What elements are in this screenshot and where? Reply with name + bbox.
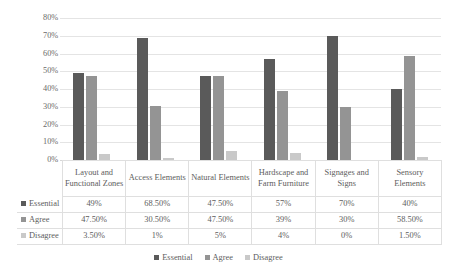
legend-swatch-icon bbox=[245, 255, 250, 260]
table-cell: 68.50% bbox=[126, 197, 189, 213]
table-cell: 40% bbox=[378, 197, 441, 213]
table-cell: 70% bbox=[315, 197, 378, 213]
bar-essential bbox=[391, 89, 402, 160]
y-axis-tick-label: 70% bbox=[43, 32, 58, 40]
bar-essential bbox=[73, 73, 84, 160]
table-column-header: Hardscape and Farm Furniture bbox=[252, 161, 315, 197]
bar-essential bbox=[264, 59, 275, 160]
table-row-header: Disagree bbox=[17, 229, 63, 245]
table-cell: 5% bbox=[189, 229, 252, 245]
bar-group bbox=[264, 18, 301, 160]
table-column-header: Access Elements bbox=[126, 161, 189, 197]
table-cell: 39% bbox=[252, 213, 315, 229]
bar-agree bbox=[277, 91, 288, 160]
bar-essential bbox=[200, 76, 211, 160]
table-cell: 49% bbox=[63, 197, 126, 213]
table-header-row: Layout and Functional ZonesAccess Elemen… bbox=[17, 161, 442, 197]
chart-legend: EssentialAgreeDisagree bbox=[0, 246, 461, 263]
table-cell: 0% bbox=[315, 229, 378, 245]
legend-swatch-icon bbox=[21, 217, 26, 222]
bar-agree bbox=[86, 76, 97, 160]
table-cell: 4% bbox=[252, 229, 315, 245]
y-axis-tick-label: 20% bbox=[43, 121, 58, 129]
table-row: Agree47.50%30.50%47.50%39%30%58.50% bbox=[17, 213, 442, 229]
y-axis-labels: 0%10%20%30%40%50%60%70%80% bbox=[30, 0, 58, 172]
table-column-header: Signages and Signs bbox=[315, 161, 378, 197]
table-cell: 30% bbox=[315, 213, 378, 229]
bar-group bbox=[327, 18, 364, 160]
bar-agree bbox=[213, 76, 224, 160]
table-row-label: Agree bbox=[29, 215, 49, 224]
y-axis-tick-label: 10% bbox=[43, 138, 58, 146]
bar-group bbox=[200, 18, 237, 160]
table-cell: 1.50% bbox=[378, 229, 441, 245]
y-axis-tick-label: 30% bbox=[43, 103, 58, 111]
table-cell: 3.50% bbox=[63, 229, 126, 245]
bar-disagree bbox=[226, 151, 237, 160]
legend-item-label: Agree bbox=[213, 253, 233, 262]
legend-item-label: Essential bbox=[162, 253, 192, 262]
legend-item[interactable]: Disagree bbox=[245, 253, 283, 263]
legend-swatch-icon bbox=[205, 255, 210, 260]
legend-swatch-icon bbox=[154, 255, 159, 260]
table-cell: 30.50% bbox=[126, 213, 189, 229]
bar-agree bbox=[150, 106, 161, 160]
bar-agree bbox=[404, 56, 415, 160]
chart-page: 0%10%20%30%40%50%60%70%80% Layout and Fu… bbox=[0, 0, 461, 263]
bar-group bbox=[137, 18, 174, 160]
table-cell: 57% bbox=[252, 197, 315, 213]
bar-agree bbox=[340, 107, 351, 160]
legend-item[interactable]: Essential bbox=[154, 253, 192, 263]
table-corner-cell bbox=[17, 161, 63, 197]
data-table: Layout and Functional ZonesAccess Elemen… bbox=[17, 160, 442, 245]
table-cell: 1% bbox=[126, 229, 189, 245]
legend-swatch-icon bbox=[21, 233, 26, 238]
table-row: Essential49%68.50%47.50%57%70%40% bbox=[17, 197, 442, 213]
bar-disagree bbox=[290, 153, 301, 160]
table-row-header: Agree bbox=[17, 213, 63, 229]
y-axis-tick-label: 50% bbox=[43, 67, 58, 75]
table-column-header: Sensory Elements bbox=[378, 161, 441, 197]
table-cell: 47.50% bbox=[189, 197, 252, 213]
y-axis-tick-label: 60% bbox=[43, 50, 58, 58]
table-row-label: Essential bbox=[29, 199, 59, 208]
bar-group bbox=[73, 18, 110, 160]
table-column-header: Natural Elements bbox=[189, 161, 252, 197]
legend-swatch-icon bbox=[21, 201, 26, 206]
bar-group bbox=[391, 18, 428, 160]
bar-essential bbox=[327, 36, 338, 160]
chart-bars bbox=[60, 0, 441, 172]
legend-item[interactable]: Agree bbox=[205, 253, 233, 263]
table-cell: 58.50% bbox=[378, 213, 441, 229]
legend-item-label: Disagree bbox=[253, 253, 283, 262]
table-row-header: Essential bbox=[17, 197, 63, 213]
table-column-header: Layout and Functional Zones bbox=[63, 161, 126, 197]
data-table-grid: Layout and Functional ZonesAccess Elemen… bbox=[17, 160, 442, 245]
y-axis-tick-label: 40% bbox=[43, 85, 58, 93]
bar-essential bbox=[137, 38, 148, 160]
table-cell: 47.50% bbox=[63, 213, 126, 229]
y-axis-tick-label: 80% bbox=[43, 14, 58, 22]
table-row: Disagree3.50%1%5%4%0%1.50% bbox=[17, 229, 442, 245]
table-row-label: Disagree bbox=[29, 231, 59, 240]
chart-plot-area: 0%10%20%30%40%50%60%70%80% bbox=[0, 0, 461, 172]
table-cell: 47.50% bbox=[189, 213, 252, 229]
